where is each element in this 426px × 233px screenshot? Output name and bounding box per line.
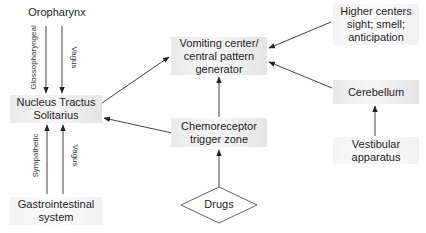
hc-label-line2: sight; smell;	[347, 18, 405, 31]
node-drugs: Drugs	[189, 198, 249, 210]
vc-label-line1: Vomiting center/	[180, 37, 259, 50]
node-oropharynx: Oropharynx	[12, 6, 102, 19]
node-cerebellum: Cerebellum	[333, 80, 419, 104]
node-higher-centers: Higher centers sight; smell; anticipatio…	[333, 4, 419, 45]
gi-label-line2: system	[39, 211, 74, 224]
hc-label-line1: Higher centers	[340, 5, 412, 18]
nts-label-line2: Solitarius	[33, 109, 78, 122]
nts-label-line1: Nucleus Tractus	[17, 96, 96, 109]
vest-label-line2: apparatus	[352, 151, 401, 164]
edge-label-glossopharyngeal: Glossopharyngeal	[29, 23, 38, 93]
drugs-label: Drugs	[204, 198, 233, 210]
edge-label-vagus-bottom: Vagus	[71, 136, 80, 176]
vc-label-line2: central pattern	[184, 50, 254, 63]
oropharynx-label: Oropharynx	[28, 6, 85, 18]
node-chemoreceptor-trigger-zone: Chemoreceptor trigger zone	[171, 118, 267, 147]
ctz-label-line2: trigger zone	[190, 133, 248, 146]
arrow-ctz-to-nts	[104, 118, 172, 133]
vest-label-line1: Vestibular	[352, 138, 400, 151]
cerebellum-label: Cerebellum	[348, 86, 404, 99]
node-vestibular-apparatus: Vestibular apparatus	[333, 137, 419, 164]
edge-label-vagus-top: Vagus	[70, 38, 79, 78]
arrow-nts-to-vc	[102, 57, 169, 103]
hc-label-line3: anticipation	[348, 31, 404, 44]
arrow-cerebellum-to-vc	[269, 62, 332, 88]
gi-label-line1: Gastrointestinal	[18, 198, 94, 211]
edge-label-sympathetic: Sympathetic	[31, 131, 40, 181]
ctz-label-line1: Chemoreceptor	[181, 120, 257, 133]
node-nucleus-tractus-solitarius: Nucleus Tractus Solitarius	[10, 95, 102, 123]
node-vomiting-center: Vomiting center/ central pattern generat…	[171, 37, 267, 75]
arrow-higher-to-vc	[269, 22, 331, 48]
vc-label-line3: generator	[195, 63, 242, 76]
node-gastrointestinal-system: Gastrointestinal system	[10, 197, 102, 225]
